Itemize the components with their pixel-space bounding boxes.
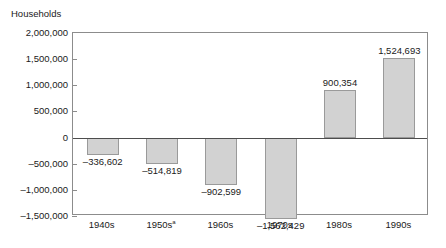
bar[interactable] bbox=[205, 138, 237, 185]
bar[interactable] bbox=[87, 138, 119, 156]
bar[interactable] bbox=[383, 58, 415, 138]
bar-value-label: –902,599 bbox=[176, 186, 266, 197]
bar-value-label: 1,524,693 bbox=[354, 45, 444, 56]
x-axis-label-text: 1950s bbox=[146, 219, 172, 230]
y-tick-label: 1,000,000 bbox=[26, 80, 68, 90]
bar[interactable] bbox=[146, 138, 178, 165]
x-axis-label-1990s: 1990s bbox=[358, 219, 438, 230]
y-tick-label: 500,000 bbox=[34, 106, 68, 116]
zero-baseline bbox=[73, 138, 427, 139]
y-tick-label: 0 bbox=[63, 133, 68, 143]
bar-value-label: –514,819 bbox=[117, 165, 207, 176]
y-tick-mark bbox=[72, 111, 77, 112]
y-tick-mark bbox=[72, 59, 77, 60]
x-axis-label-text: 1960s bbox=[207, 219, 233, 230]
x-axis-label-text: 1940s bbox=[89, 219, 115, 230]
x-axis-label-text: 1980s bbox=[326, 219, 352, 230]
y-tick-mark bbox=[72, 85, 77, 86]
y-tick-label: 2,000,000 bbox=[26, 28, 68, 38]
y-tick-label: 1,500,000 bbox=[26, 54, 68, 64]
x-axis-label-text: 1990s bbox=[385, 219, 411, 230]
y-tick-mark bbox=[72, 190, 77, 191]
x-axis-label-text: 1970s bbox=[267, 219, 293, 230]
bar-value-label: 900,354 bbox=[295, 77, 385, 88]
bar[interactable] bbox=[324, 90, 356, 137]
y-tick-mark bbox=[72, 216, 77, 217]
footnote-marker: a bbox=[172, 219, 175, 225]
y-tick-label: –1,000,000 bbox=[20, 185, 68, 195]
y-axis-title: Households bbox=[11, 8, 61, 19]
bar[interactable] bbox=[265, 138, 297, 220]
plot-area: 2,000,0001,500,0001,000,000500,0000–500,… bbox=[72, 32, 428, 215]
chart-figure: Households 2,000,0001,500,0001,000,00050… bbox=[0, 0, 446, 248]
